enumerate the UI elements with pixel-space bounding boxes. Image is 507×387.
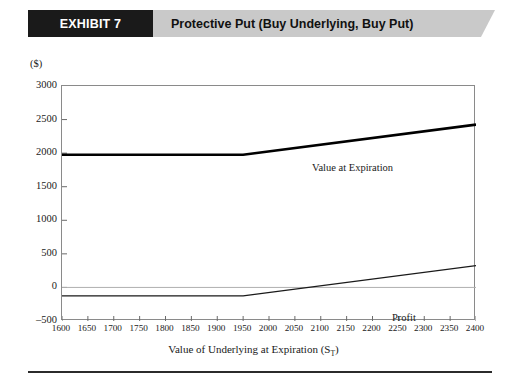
- x-tick-label: 2150: [336, 324, 354, 333]
- x-tick-label: 2100: [311, 324, 329, 333]
- y-axis-tick-labels: 300025002000150010005000–500: [15, 40, 57, 370]
- x-tick-label: 1850: [181, 324, 199, 333]
- x-tick-label: 1600: [52, 324, 70, 333]
- exhibit-title: Protective Put (Buy Underlying, Buy Put): [171, 10, 413, 37]
- x-tick-label: 1950: [233, 324, 251, 333]
- header-black-banner: EXHIBIT 7: [28, 10, 153, 37]
- y-tick-label: 1500: [17, 181, 57, 192]
- series-line-profit: [62, 266, 476, 296]
- y-tick-label: 0: [17, 281, 57, 292]
- series-line-value-at-expiration: [62, 125, 476, 155]
- x-tick-label: 1700: [104, 324, 122, 333]
- y-tick-label: 500: [17, 248, 57, 259]
- x-tick-label: 2000: [259, 324, 277, 333]
- x-axis-tick-labels: 1600165017001750180018501900195020002050…: [0, 324, 507, 338]
- y-axis-ticks: [62, 120, 67, 288]
- series-annotation-value-at-expiration: Value at Expiration: [312, 162, 393, 173]
- x-tick-label: 1800: [155, 324, 173, 333]
- bottom-divider-rule: [28, 371, 492, 373]
- x-tick-label: 1650: [78, 324, 96, 333]
- x-tick-label: 1750: [129, 324, 147, 333]
- plot-area: Value at Expiration Profit: [61, 85, 475, 320]
- y-tick-label: 2500: [17, 114, 57, 125]
- x-axis-title: Value of Underlying at Expiration (ST): [0, 343, 507, 358]
- chart-region: ($) 300025002000150010005000–500 Value a…: [0, 40, 507, 370]
- y-tick-label: 3000: [17, 80, 57, 91]
- x-tick-label: 2200: [362, 324, 380, 333]
- x-tick-label: 2350: [440, 324, 458, 333]
- x-tick-label: 2300: [414, 324, 432, 333]
- y-tick-label: 2000: [17, 147, 57, 158]
- plot-svg: [62, 86, 476, 321]
- x-tick-label: 2050: [285, 324, 303, 333]
- x-axis-title-text: Value of Underlying at Expiration (S: [168, 343, 330, 355]
- y-tick-label: 1000: [17, 214, 57, 225]
- exhibit-header: EXHIBIT 7 Protective Put (Buy Underlying…: [28, 10, 495, 37]
- series-annotation-profit: Profit: [392, 312, 416, 323]
- x-tick-label: 1900: [207, 324, 225, 333]
- x-tick-label: 2400: [466, 324, 484, 333]
- exhibit-number-label: EXHIBIT 7: [60, 17, 122, 31]
- x-tick-label: 2250: [388, 324, 406, 333]
- x-axis-title-tail: ): [335, 343, 339, 355]
